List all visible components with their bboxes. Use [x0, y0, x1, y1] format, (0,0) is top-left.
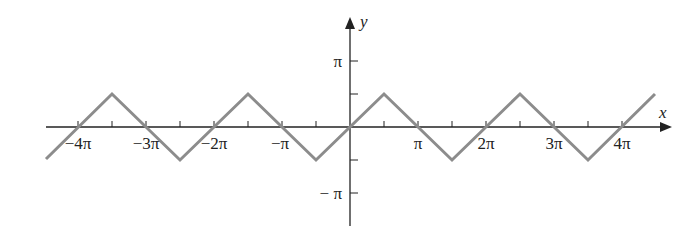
- x-tick-label: 3π: [545, 134, 563, 153]
- triangle-wave-chart: −4π −3π −2π −π π 2π 3π 4π π − π x y: [0, 0, 694, 232]
- x-tick-label: −4π: [65, 134, 92, 153]
- y-tick-label-neg-pi: − π: [320, 184, 343, 203]
- y-tick-label-pi: π: [333, 52, 342, 71]
- x-tick-label: −3π: [133, 134, 160, 153]
- x-tick-label: 4π: [613, 134, 631, 153]
- x-tick-label: 2π: [477, 134, 495, 153]
- x-axis-arrow-icon: [660, 122, 672, 132]
- x-axis-label: x: [658, 103, 667, 122]
- x-tick-label: −π: [271, 134, 290, 153]
- y-axis-arrow-icon: [345, 17, 355, 29]
- x-tick-label: π: [414, 134, 423, 153]
- x-tick-label: −2π: [201, 134, 228, 153]
- y-axis-label: y: [358, 12, 368, 31]
